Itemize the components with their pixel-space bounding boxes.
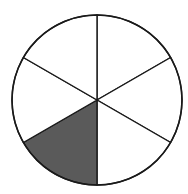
circle-divided-into-sixths — [0, 0, 188, 194]
fraction-circle-diagram — [0, 0, 188, 194]
